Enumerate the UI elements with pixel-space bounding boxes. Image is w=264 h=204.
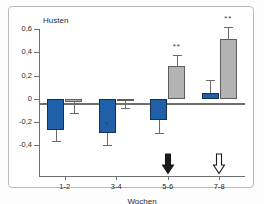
x-tick	[116, 176, 117, 180]
y-axis-line	[39, 29, 40, 157]
y-tick-label: 0,4	[22, 49, 32, 57]
error-bar	[177, 55, 178, 67]
zero-baseline	[39, 103, 245, 105]
black-down-arrow	[161, 153, 174, 179]
y-axis-title: Husten	[43, 17, 68, 25]
significance-marker: *	[105, 121, 109, 129]
bar-blue-7-8	[202, 93, 219, 99]
y-tick	[34, 76, 39, 77]
white-down-arrow	[213, 153, 226, 179]
error-bar-cap	[155, 133, 164, 134]
y-tick	[34, 52, 39, 53]
chart-frame: Husten 0,60,40,20-0,2-0,4 1-23-45-67-8 *…	[8, 6, 254, 188]
y-tick-label: 0,6	[22, 25, 32, 33]
error-bar	[159, 120, 160, 133]
y-tick	[34, 99, 39, 100]
bar-gray-5-6	[168, 66, 185, 99]
plot-area: 0,60,40,20-0,2-0,4 1-23-45-67-8 ***** Wo…	[39, 29, 245, 157]
bar-blue-1-2	[47, 99, 64, 130]
y-tick-label: 0	[28, 95, 32, 103]
error-bar	[210, 80, 211, 93]
y-tick	[34, 29, 39, 30]
error-bar-cap	[70, 113, 79, 114]
figure-caption	[10, 190, 258, 203]
error-bar-cap	[121, 108, 130, 109]
error-bar-cap	[103, 145, 112, 146]
y-tick-label: -0,4	[19, 142, 32, 150]
x-axis-connector	[39, 157, 40, 177]
figure-container: Husten 0,60,40,20-0,2-0,4 1-23-45-67-8 *…	[0, 0, 264, 204]
error-bar-cap	[206, 80, 215, 81]
error-bar-cap	[173, 55, 182, 56]
bar-gray-7-8	[220, 39, 237, 98]
y-tick	[34, 145, 39, 146]
y-tick-label: 0,2	[22, 72, 32, 80]
y-tick-label: -0,2	[19, 118, 32, 126]
error-bar	[107, 133, 108, 146]
error-bar	[125, 101, 126, 108]
significance-marker: **	[173, 43, 181, 51]
error-bar-cap	[52, 141, 61, 142]
bar-blue-5-6	[150, 99, 167, 121]
error-bar	[74, 102, 75, 112]
error-bar	[56, 130, 57, 141]
significance-marker: **	[224, 15, 232, 23]
error-bar-cap	[224, 27, 233, 28]
y-tick	[34, 122, 39, 123]
x-tick	[65, 176, 66, 180]
error-bar	[228, 27, 229, 39]
